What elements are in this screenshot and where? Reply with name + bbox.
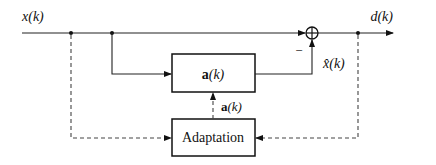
filter-block-label: a(k) [202, 67, 225, 83]
summing-junction [306, 27, 318, 39]
filter-input-line [112, 33, 171, 74]
estimate-signal-label: x̂(k) [322, 56, 345, 72]
adapt-input-dashed-line [71, 35, 171, 138]
minus-sign: − [295, 43, 302, 58]
input-signal-label: x(k) [21, 9, 44, 25]
estimate-line [255, 40, 312, 74]
adapt-error-dashed-line [256, 35, 358, 138]
junction-dot-error [356, 31, 360, 35]
coefficient-label: a(k) [221, 99, 242, 114]
adaptive-filter-diagram: a(k) − Adaptation a(k) x(k) d(k) x̂(k) [0, 0, 436, 165]
junction-dot-adapt-input [69, 31, 73, 35]
adaptation-block-label: Adaptation [182, 130, 244, 145]
output-signal-label: d(k) [370, 9, 393, 25]
